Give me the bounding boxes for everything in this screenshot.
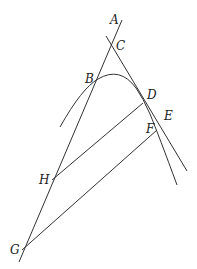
- point-label-C: C: [116, 39, 125, 53]
- tangent-line-CE: [106, 36, 187, 171]
- geometry-diagram: A C B D E F H G: [0, 0, 197, 269]
- point-label-F: F: [145, 122, 155, 136]
- point-label-D: D: [146, 88, 157, 102]
- line-HD: [52, 103, 143, 180]
- point-label-G: G: [10, 243, 20, 257]
- point-label-E: E: [163, 109, 173, 123]
- point-label-B: B: [84, 72, 94, 86]
- point-label-H: H: [38, 173, 50, 187]
- curve: [60, 74, 177, 185]
- point-label-A: A: [109, 13, 119, 27]
- line-AG: [19, 20, 122, 262]
